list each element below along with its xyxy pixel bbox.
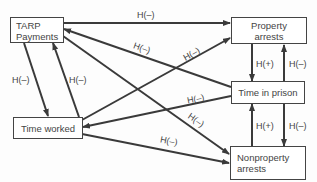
label-tarp-to-worked: H(–) (12, 76, 30, 85)
node-time-in-prison-label: Time in prison (238, 87, 297, 98)
node-tarp-line1: TARP (16, 20, 58, 31)
label-nonproperty-to-prison: H(+) (256, 122, 274, 131)
label-worked-to-tarp: H(–) (69, 76, 87, 85)
node-time-in-prison: Time in prison (231, 81, 305, 104)
edge-prison-to-worked (83, 96, 231, 127)
label-property-to-prison: H(+) (256, 60, 274, 69)
node-property-arrests: Property arrests (231, 17, 307, 44)
node-nonproperty-line2: arrests (237, 163, 299, 174)
diagram-root: TARP Payments Property arrests Time in p… (0, 0, 317, 182)
node-tarp-payments: TARP Payments (10, 17, 64, 43)
label-prison-to-property: H(–) (289, 60, 307, 69)
node-time-worked-label: Time worked (21, 123, 75, 134)
edge-prison-to-tarp (64, 29, 231, 87)
label-tarp-to-property: H(–) (137, 11, 155, 20)
label-prison-to-nonproperty: H(–) (289, 122, 307, 131)
node-property-arrests-label: Property arrests (236, 20, 302, 42)
node-tarp-line2: Payments (16, 31, 58, 42)
node-nonproperty-arrests: Nonproperty arrests (230, 146, 306, 180)
node-time-worked: Time worked (13, 117, 83, 139)
node-nonproperty-line1: Nonproperty (237, 152, 299, 163)
